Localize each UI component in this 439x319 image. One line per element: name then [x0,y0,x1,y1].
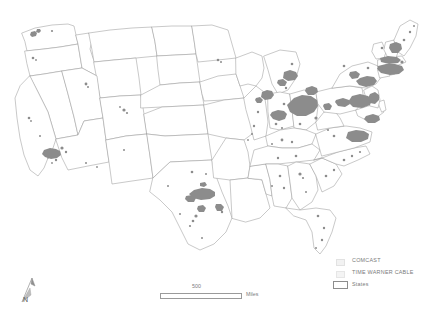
comcast-swatch-icon [333,257,348,266]
state-newmexico [106,134,153,184]
state-arkansas [212,138,250,180]
state-kansas [144,105,208,136]
scale-bar-unit: Miles [246,292,258,297]
map-viewport: N 500 Miles COMCAST TIME WARNER CABLE St… [0,0,439,319]
legend-item-comcast: COMCAST [333,256,433,266]
legend-label-states: States [352,282,369,287]
state-southdakota [157,54,200,85]
legend-label-comcast: COMCAST [352,258,381,263]
state-wyoming [94,58,141,98]
state-florida [286,208,336,254]
state-vermont [372,42,386,59]
north-label: N [23,296,28,303]
states-swatch-icon [333,281,348,289]
map-legend: COMCAST TIME WARNER CABLE States [333,256,433,292]
north-arrow: N [14,274,48,310]
state-montana [89,27,157,62]
legend-item-states: States [333,280,433,290]
north-arrow-icon [14,274,48,310]
legend-item-time-warner-cable: TIME WARNER CABLE [333,268,433,278]
state-northdakota [152,26,196,56]
scale-bar-value: 500 [192,284,201,289]
time-warner-cable-swatch-icon [333,269,348,278]
scale-bar: 500 Miles [160,285,270,307]
scale-bar-graphic [160,293,242,299]
state-minnesota [192,25,236,62]
state-wisconsin [236,52,264,86]
state-colorado [100,95,147,140]
state-nebraska [141,82,204,108]
legend-label-time-warner-cable: TIME WARNER CABLE [352,270,414,275]
